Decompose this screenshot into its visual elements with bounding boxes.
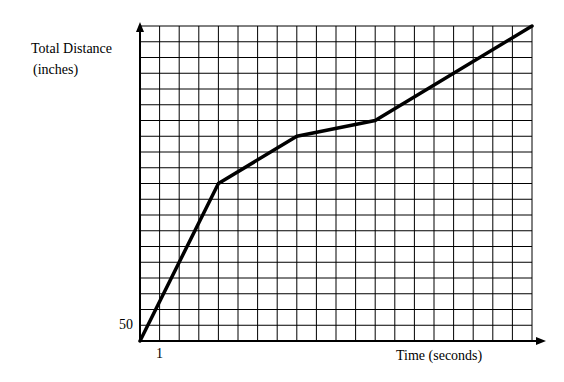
x-axis-label: Time (seconds) — [396, 349, 482, 363]
x-tick-label: 1 — [156, 347, 163, 361]
grid-lines — [140, 26, 532, 341]
line-chart — [0, 0, 564, 382]
x-axis-arrow-icon — [536, 337, 546, 345]
y-axis-arrow-icon — [136, 22, 144, 32]
y-tick-label: 50 — [119, 318, 133, 332]
y-axis-label-line1: Total Distance — [31, 42, 112, 56]
y-axis-label-line2: (inches) — [33, 63, 78, 77]
